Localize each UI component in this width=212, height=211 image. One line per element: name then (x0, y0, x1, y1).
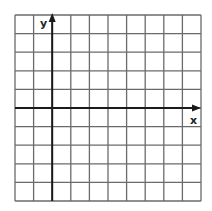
arrow-right-icon (192, 105, 201, 112)
grid-svg: x y (0, 0, 212, 211)
x-axis-label: x (190, 114, 197, 127)
coordinate-grid: x y (0, 0, 212, 211)
y-axis-label: y (40, 17, 47, 30)
